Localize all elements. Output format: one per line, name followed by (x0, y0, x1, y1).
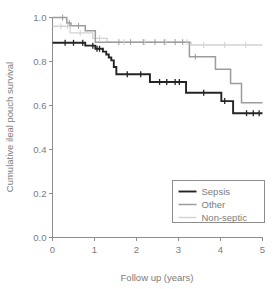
legend-label-other: Other (202, 199, 226, 210)
legend-label-sepsis: Sepsis (202, 186, 231, 197)
x-axis-title: Follow up (years) (121, 272, 194, 283)
y-axis-title: Cumulative ileal pouch survival (4, 62, 15, 192)
series-curves (53, 18, 263, 114)
y-tick-label: 0.4 (33, 144, 46, 155)
legend-label-non-septic: Non-septic (202, 212, 248, 223)
y-tick-label: 0.8 (33, 56, 46, 67)
y-tick-label: 0.6 (33, 100, 46, 111)
survival-chart: 012345 0.00.20.40.60.81.0 SepsisOtherNon… (0, 0, 280, 289)
y-tick-label: 1.0 (33, 12, 46, 23)
x-tick-label: 1 (92, 244, 97, 255)
x-tick-label: 0 (50, 244, 55, 255)
x-tick-label: 4 (218, 244, 223, 255)
y-axis-ticks: 0.00.20.40.60.81.0 (33, 12, 52, 243)
legend: SepsisOtherNon-septic (173, 181, 265, 223)
x-tick-label: 2 (134, 244, 139, 255)
x-axis-ticks: 012345 (50, 238, 265, 255)
y-tick-label: 0.2 (33, 188, 46, 199)
x-tick-label: 5 (260, 244, 265, 255)
y-tick-label: 0.0 (33, 232, 46, 243)
chart-canvas: 012345 0.00.20.40.60.81.0 SepsisOtherNon… (0, 0, 280, 289)
x-tick-label: 3 (176, 244, 181, 255)
series-line-other (53, 18, 263, 103)
